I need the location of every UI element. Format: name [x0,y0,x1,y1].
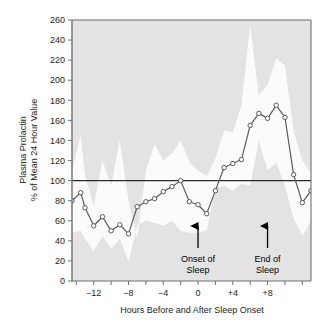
data-point-marker [109,229,113,233]
data-point-marker [178,178,182,182]
data-point-marker [205,212,209,216]
y-tick-label: 80 [55,196,65,206]
data-point-marker [239,157,243,161]
data-point-marker [144,200,148,204]
data-point-marker [213,188,217,192]
y-tick-label: 40 [55,236,65,246]
x-tick-label: 0 [196,288,201,298]
x-tick-label: −12 [86,288,101,298]
data-point-marker [283,115,287,119]
data-point-marker [196,203,200,207]
data-point-marker [126,232,130,236]
y-tick-label: 20 [55,256,65,266]
end-label-line1: End of [255,254,282,264]
x-tick-label: +8 [262,288,272,298]
y-tick-label: 260 [50,15,65,25]
data-point-marker [257,111,261,115]
plasma-prolactin-line-chart: 020406080100120140160180200220240260 −12… [0,0,331,328]
data-point-marker [170,184,174,188]
data-point-marker [248,123,252,127]
y-tick-label: 0 [60,276,65,286]
y-axis-title-line2: % of Mean 24 Hour Value [29,99,39,201]
data-point-marker [100,215,104,219]
x-tick-label: −4 [158,288,168,298]
y-tick-label: 160 [50,116,65,126]
data-point-marker [78,190,82,194]
end-label-line2: Sleep [256,265,279,275]
data-point-marker [83,206,87,210]
data-point-marker [118,223,122,227]
data-point-marker [135,205,139,209]
data-point-marker [291,172,295,176]
y-tick-label: 120 [50,156,65,166]
y-tick-label: 140 [50,136,65,146]
data-point-marker [222,165,226,169]
data-point-marker [187,200,191,204]
y-tick-label: 180 [50,96,65,106]
onset-label-line2: Sleep [187,265,210,275]
y-tick-label: 60 [55,216,65,226]
data-point-marker [265,116,269,120]
data-point-marker [274,103,278,107]
y-tick-label: 200 [50,75,65,85]
chart-figure: 020406080100120140160180200220240260 −12… [0,0,331,328]
y-axis-title-line1: Plasma Prolactin [18,116,28,184]
y-tick-label: 240 [50,35,65,45]
data-point-marker [161,189,165,193]
y-tick-label: 100 [50,176,65,186]
data-point-marker [92,224,96,228]
onset-label-line1: Onset of [181,254,216,264]
x-axis-title: Hours Before and After Sleep Onset [120,305,264,315]
x-tick-label: +4 [228,288,238,298]
data-point-marker [152,196,156,200]
data-point-marker [231,161,235,165]
y-tick-label: 220 [50,55,65,65]
x-tick-label: −8 [123,288,133,298]
data-point-marker [300,201,304,205]
